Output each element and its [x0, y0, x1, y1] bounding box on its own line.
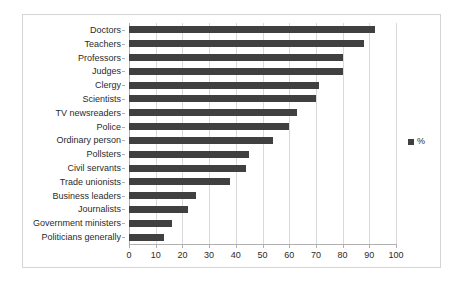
- category-tick: [122, 113, 125, 114]
- category-tick: [122, 71, 125, 72]
- category-tick: [122, 237, 125, 238]
- category-tick: [122, 182, 125, 183]
- bar-row: [129, 51, 396, 65]
- x-tick: [156, 244, 157, 248]
- category-label: Pollsters: [86, 149, 121, 159]
- category-tick: [122, 44, 125, 45]
- category-tick: [122, 140, 125, 141]
- bar-row: [129, 23, 396, 37]
- x-tick-label: 90: [364, 250, 374, 260]
- bar-row: [129, 37, 396, 51]
- x-tick-label: 100: [388, 250, 403, 260]
- x-tick-label: 60: [284, 250, 294, 260]
- category-label: Politicians generally: [41, 232, 121, 242]
- bar: [129, 151, 249, 158]
- x-tick: [263, 244, 264, 248]
- bar-row: [129, 64, 396, 78]
- bar-row: [129, 230, 396, 244]
- bar-row: [129, 120, 396, 134]
- bar: [129, 68, 343, 75]
- category-label: Business leaders: [52, 191, 121, 201]
- bar: [129, 220, 172, 227]
- bar: [129, 234, 164, 241]
- category-tick: [122, 127, 125, 128]
- category-label: Ordinary person: [56, 135, 121, 145]
- x-tick-label: 40: [231, 250, 241, 260]
- chart-frame: DoctorsTeachersProfessorsJudgesClergySci…: [22, 14, 441, 268]
- bar: [129, 40, 364, 47]
- category-tick: [122, 99, 125, 100]
- bar: [129, 54, 343, 61]
- x-tick: [343, 244, 344, 248]
- legend-label: %: [417, 137, 425, 146]
- category-label: Civil servants: [67, 163, 121, 173]
- bar: [129, 192, 196, 199]
- plot-right-edge: [396, 23, 397, 244]
- x-tick-label: 50: [257, 250, 267, 260]
- bar: [129, 137, 273, 144]
- legend: %: [408, 137, 425, 146]
- category-label: Journalists: [78, 204, 121, 214]
- x-tick-label: 70: [311, 250, 321, 260]
- x-tick: [396, 244, 397, 248]
- category-label: Government ministers: [33, 218, 121, 228]
- bar-row: [129, 216, 396, 230]
- category-label: Clergy: [95, 80, 121, 90]
- category-label: Police: [96, 122, 121, 132]
- bar: [129, 206, 188, 213]
- x-tick: [236, 244, 237, 248]
- category-label: Professors: [78, 53, 121, 63]
- category-label: TV newsreaders: [55, 108, 121, 118]
- category-label: Judges: [92, 66, 121, 76]
- bar-row: [129, 92, 396, 106]
- category-label: Trade unionists: [60, 177, 121, 187]
- category-axis: DoctorsTeachersProfessorsJudgesClergySci…: [23, 23, 125, 244]
- bar-row: [129, 78, 396, 92]
- bar-row: [129, 134, 396, 148]
- x-tick-label: 30: [204, 250, 214, 260]
- category-tick: [122, 30, 125, 31]
- bar: [129, 123, 289, 130]
- bar: [129, 26, 375, 33]
- bar: [129, 82, 319, 89]
- x-tick-label: 80: [338, 250, 348, 260]
- x-tick-label: 10: [151, 250, 161, 260]
- category-tick: [122, 154, 125, 155]
- x-tick: [369, 244, 370, 248]
- bar-row: [129, 175, 396, 189]
- bar: [129, 165, 246, 172]
- category-label: Teachers: [84, 39, 121, 49]
- category-tick: [122, 58, 125, 59]
- bar: [129, 109, 297, 116]
- category-tick: [122, 209, 125, 210]
- bar: [129, 95, 316, 102]
- category-label: Scientists: [82, 94, 121, 104]
- category-tick: [122, 168, 125, 169]
- x-tick: [289, 244, 290, 248]
- plot-area: [129, 23, 396, 244]
- category-tick: [122, 85, 125, 86]
- x-tick-label: 0: [126, 250, 131, 260]
- bar-row: [129, 189, 396, 203]
- category-tick: [122, 196, 125, 197]
- bar-row: [129, 106, 396, 120]
- x-tick: [182, 244, 183, 248]
- legend-swatch-icon: [408, 139, 414, 145]
- x-tick: [209, 244, 210, 248]
- x-tick: [316, 244, 317, 248]
- bar-row: [129, 203, 396, 217]
- category-tick: [122, 223, 125, 224]
- category-label: Doctors: [90, 25, 121, 35]
- bar-row: [129, 147, 396, 161]
- bar-row: [129, 161, 396, 175]
- bar-series: [129, 23, 396, 244]
- x-tick-label: 20: [177, 250, 187, 260]
- x-tick: [129, 244, 130, 248]
- bar: [129, 178, 230, 185]
